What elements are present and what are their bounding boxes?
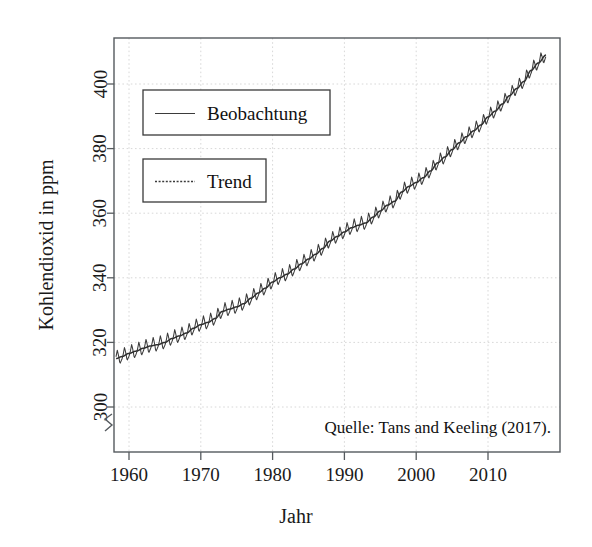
y-tick-label: 380 — [90, 134, 111, 163]
x-tick-label: 1990 — [325, 464, 363, 485]
co2-chart: 3003203403603804001960197019801990200020… — [0, 0, 592, 547]
y-axis-title: Kohlendioxid in ppm — [35, 159, 58, 331]
x-tick-label: 2010 — [469, 464, 507, 485]
x-tick-label: 1970 — [182, 464, 220, 485]
y-tick-label: 320 — [90, 328, 111, 357]
legend-label: Trend — [207, 171, 252, 192]
source-annotation: Quelle: Tans and Keeling (2017). — [324, 418, 551, 437]
keeling-curve-figure: 3003203403603804001960197019801990200020… — [0, 0, 592, 547]
y-tick-label: 360 — [90, 199, 111, 228]
x-tick-label: 1960 — [110, 464, 148, 485]
x-axis-title: Jahr — [279, 505, 313, 527]
legend-label: Beobachtung — [207, 103, 308, 124]
legend-entry-2: Trend — [143, 159, 266, 202]
legend-entry-1: Beobachtung — [143, 90, 330, 135]
x-tick-label: 2000 — [397, 464, 435, 485]
y-tick-label: 340 — [90, 264, 111, 293]
x-tick-label: 1980 — [254, 464, 292, 485]
y-tick-label: 400 — [90, 70, 111, 99]
